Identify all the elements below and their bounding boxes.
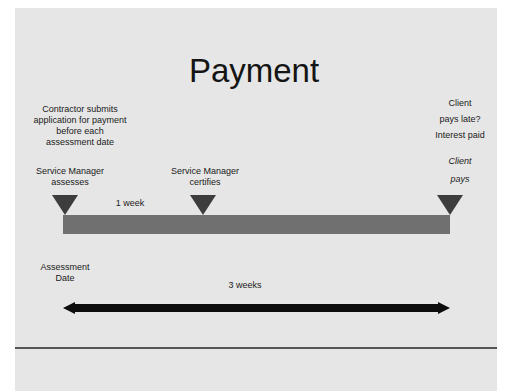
assessment-date-label: Assessment Date	[30, 262, 100, 284]
arrow-right-head-icon	[438, 302, 450, 314]
client-pays-late-label: Client pays late? Interest paid	[420, 95, 500, 143]
client-pays-marker-triangle	[437, 195, 463, 215]
contractor-submits-label: Contractor submits application for payme…	[20, 104, 140, 148]
certify-marker-triangle	[190, 195, 216, 215]
three-weeks-label: 3 weeks	[220, 280, 270, 291]
three-weeks-arrow	[74, 304, 440, 312]
slide-divider-line	[15, 347, 497, 349]
one-week-label: 1 week	[110, 198, 150, 209]
sm-assesses-label: Service Manager assesses	[25, 166, 115, 188]
client-pays-label: Client pays	[420, 152, 500, 188]
timeline-bar	[63, 215, 450, 234]
sm-certifies-label: Service Manager certifies	[160, 166, 250, 188]
assess-marker-triangle	[52, 195, 78, 215]
slide-title: Payment	[0, 52, 508, 90]
